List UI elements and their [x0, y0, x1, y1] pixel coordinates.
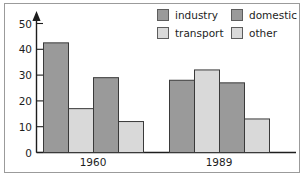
y-tick-20: 20: [12, 96, 32, 106]
y-tick-40: 40: [12, 44, 32, 54]
y-axis-ticks: [37, 24, 44, 153]
chart-legend: industry domestic transport other: [156, 9, 302, 45]
bar-1960-transport: [69, 109, 94, 153]
legend-swatch-industry: [157, 9, 169, 21]
bar-1989-industry: [170, 80, 195, 152]
y-axis-arrow-icon: [32, 11, 40, 21]
bar-1960-other: [119, 122, 144, 153]
y-tick-0: 0: [12, 148, 32, 158]
bar-1960-domestic: [94, 78, 119, 153]
bar-1960-industry: [44, 43, 69, 153]
legend-swatch-domestic: [231, 9, 243, 21]
legend-label-industry: industry: [175, 8, 218, 22]
y-tick-30: 30: [12, 70, 32, 80]
legend-label-other: other: [249, 26, 277, 40]
bar-1989-transport: [195, 70, 220, 153]
legend-swatch-transport: [157, 27, 169, 39]
x-tick-label-1960: 1960: [63, 156, 123, 168]
bar-1989-other: [245, 119, 270, 153]
y-tick-50: 50: [12, 19, 32, 29]
y-tick-10: 10: [12, 122, 32, 132]
legend-swatch-other: [231, 27, 243, 39]
x-tick-label-1989: 1989: [189, 156, 249, 168]
legend-label-transport: transport: [175, 26, 224, 40]
bar-1989-domestic: [220, 83, 245, 153]
legend-label-domestic: domestic: [249, 8, 297, 22]
y-axis-tick-labels: 50 40 30 20 10 0: [12, 0, 32, 179]
